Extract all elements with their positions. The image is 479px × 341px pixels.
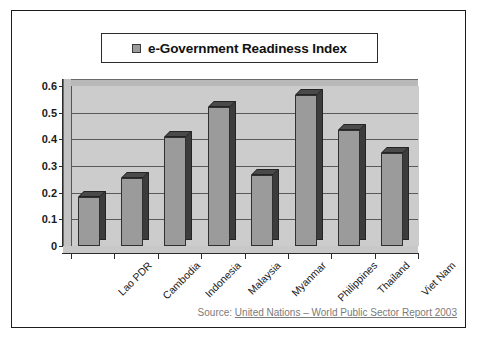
- x-axis-label: Indonesia: [203, 259, 244, 300]
- y-axis-tick-label: 0.2: [42, 187, 57, 199]
- bar-side-face: [403, 147, 409, 240]
- y-axis-tick-label: 0.3: [42, 160, 57, 172]
- bar-side-face: [273, 169, 279, 240]
- x-axis-label: Thailand: [375, 259, 412, 296]
- gridline: [71, 113, 418, 114]
- bar: [164, 137, 186, 246]
- gridline: [71, 166, 418, 167]
- x-axis-label: Lao PDR: [115, 259, 154, 298]
- chart-figure: e-Government Readiness Index 00.10.20.30…: [0, 0, 479, 341]
- y-axis-tick: [59, 246, 63, 247]
- source-prefix: Source:: [198, 307, 232, 318]
- y-axis-tick: [59, 166, 63, 167]
- bar-front-face: [164, 137, 186, 246]
- bar-front-face: [121, 178, 143, 246]
- bar-front-face: [78, 197, 100, 246]
- bar-front-face: [295, 95, 317, 246]
- bar-side-face: [186, 131, 192, 240]
- x-axis-label: Myanmar: [289, 259, 328, 298]
- y-axis-tick: [59, 139, 63, 140]
- y-axis-tick: [59, 86, 63, 87]
- y-axis-tick-label: 0.1: [42, 213, 57, 225]
- bar-side-face: [317, 89, 323, 240]
- x-axis-label: Malaysia: [245, 259, 283, 297]
- y-axis-tick: [59, 219, 63, 220]
- bar: [208, 107, 230, 246]
- plot-area: [71, 86, 418, 246]
- source-note: Source: United Nations – World Public Se…: [198, 307, 457, 318]
- y-axis-tick-label: 0: [51, 240, 57, 252]
- x-axis-label: Viet Nam: [419, 259, 458, 298]
- chart-legend: e-Government Readiness Index: [101, 33, 378, 63]
- bar-front-face: [251, 175, 273, 246]
- bar-side-face: [230, 101, 236, 240]
- x-axis: [62, 253, 419, 254]
- x-axis-label: Philippines: [334, 259, 378, 303]
- bar: [338, 130, 360, 246]
- bar: [251, 175, 273, 246]
- bar-front-face: [381, 153, 403, 246]
- plot-left-wall: [63, 79, 71, 254]
- y-axis-tick-label: 0.4: [42, 133, 57, 145]
- y-axis: 00.10.20.30.40.50.6: [62, 79, 63, 247]
- gridline: [71, 139, 418, 140]
- bar-front-face: [208, 107, 230, 246]
- x-axis-labels: Lao PDRCambodiaIndonesiaMalaysiaMyanmarP…: [0, 259, 479, 309]
- bar-side-face: [143, 172, 149, 240]
- source-link[interactable]: United Nations – World Public Sector Rep…: [235, 307, 457, 318]
- bar-front-face: [338, 130, 360, 246]
- bar: [381, 153, 403, 246]
- y-axis-tick: [59, 193, 63, 194]
- bar-side-face: [100, 191, 106, 240]
- bar: [78, 197, 100, 246]
- legend-label: e-Government Readiness Index: [148, 41, 347, 56]
- y-axis-tick-label: 0.5: [42, 107, 57, 119]
- bar-side-face: [360, 124, 366, 240]
- y-axis-tick: [59, 113, 63, 114]
- x-axis-label: Cambodia: [160, 259, 202, 301]
- legend-swatch-icon: [132, 44, 141, 53]
- bar: [295, 95, 317, 246]
- y-axis-tick-label: 0.6: [42, 80, 57, 92]
- bar: [121, 178, 143, 246]
